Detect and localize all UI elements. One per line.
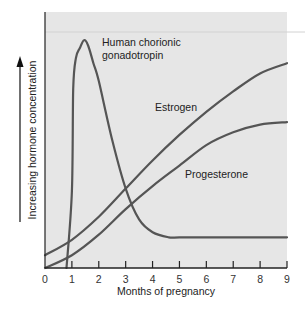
x-tick-label: 0 [42, 273, 48, 285]
x-tick-label: 5 [177, 273, 183, 285]
x-tick-label: 4 [150, 273, 156, 285]
up-arrow-icon [17, 56, 24, 67]
x-tick-label: 2 [96, 273, 102, 285]
x-tick-label: 8 [257, 273, 263, 285]
x-tick-label: 3 [123, 273, 129, 285]
y-axis-title: Increasing hormone concentration [26, 60, 38, 219]
x-tick-label: 6 [203, 273, 209, 285]
hcg-label-line1: Human chorionic [102, 36, 181, 48]
x-tick-label: 9 [284, 273, 290, 285]
x-tick-label: 1 [69, 273, 75, 285]
plot-area [45, 12, 287, 268]
estrogen-label: Estrogen [155, 101, 197, 113]
progesterone-label: Progesterone [185, 168, 248, 180]
x-tick-label: 7 [230, 273, 236, 285]
x-axis-title: Months of pregnancy [117, 285, 216, 297]
hcg-label-line2: gonadotropin [102, 49, 163, 61]
hormone-chart: 0123456789 Months of pregnancy Increasin… [0, 0, 305, 311]
